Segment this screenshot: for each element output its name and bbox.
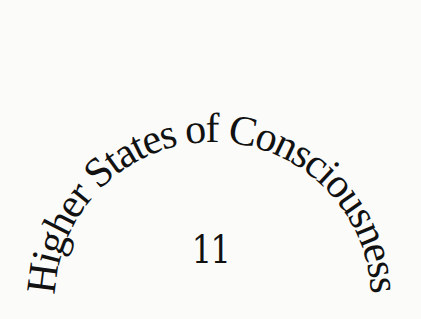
chapter-number: 11 [42, 226, 379, 272]
book-page: Higher States of Consciousness 11 [0, 0, 421, 319]
